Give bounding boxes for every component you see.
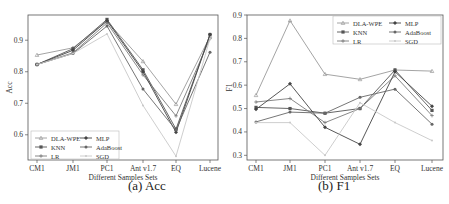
y-tick-label: 0.5	[233, 104, 243, 113]
x-tick-label: JM1	[66, 164, 80, 173]
y-axis-label: Acc	[5, 81, 14, 94]
y-axis-label: F1	[225, 83, 234, 91]
x-tick-label: JM1	[283, 164, 297, 173]
y-tick-label: 0.8	[233, 34, 243, 43]
marker-star	[324, 112, 327, 115]
legend-label: KNN	[353, 29, 367, 36]
legend-label: LR	[51, 153, 60, 160]
marker-dot	[36, 63, 38, 65]
f1-caption: (b) F1	[318, 178, 350, 194]
f1-line-chart: 0.30.40.50.60.70.80.9CM1JM1PC1Ant v1.7EQ…	[225, 0, 449, 204]
acc-chart-panel: 0.60.70.80.9CM1JM1PC1Ant v1.7EQLuceneDif…	[0, 0, 225, 204]
marker-star	[142, 88, 145, 91]
y-tick-label: 0.7	[233, 57, 243, 66]
legend: DLA-WPEKNNLRMLPAdaBoostSGD	[333, 16, 441, 45]
marker-star	[394, 31, 397, 34]
marker-dot	[142, 104, 144, 106]
marker-dot	[431, 140, 433, 142]
y-tick-label: 0.7	[14, 99, 24, 108]
series-mlp	[35, 19, 212, 135]
marker-dot	[255, 122, 257, 124]
marker-star	[209, 51, 212, 54]
marker-dot	[394, 122, 396, 124]
series-knn	[35, 18, 211, 131]
marker-dot	[209, 38, 211, 40]
acc-caption: (a) Acc	[128, 178, 166, 194]
marker-dot	[85, 155, 87, 157]
marker-star	[431, 123, 434, 126]
series-adaboost	[255, 88, 434, 126]
marker-star	[289, 111, 292, 114]
series-sgd	[255, 102, 433, 157]
marker-dot	[359, 102, 361, 104]
legend-label: AdaBoost	[96, 144, 122, 151]
series-line	[256, 70, 432, 113]
marker-diamond	[358, 142, 362, 146]
marker-star	[175, 129, 178, 132]
marker-square	[341, 30, 344, 33]
marker-dot	[394, 40, 396, 42]
marker-dot	[324, 154, 326, 156]
legend-label: LR	[353, 38, 362, 45]
marker-dot	[289, 122, 291, 124]
series-knn	[254, 68, 433, 114]
marker-plus	[254, 100, 258, 104]
series-line	[256, 89, 432, 124]
series-line	[37, 21, 210, 104]
marker-dot	[175, 155, 177, 157]
legend-label: KNN	[51, 144, 65, 151]
x-tick-label: CM1	[29, 164, 45, 173]
y-tick-label: 0.9	[233, 11, 243, 20]
x-tick-label: Lucene	[199, 164, 222, 173]
marker-square	[39, 145, 42, 148]
series-dla-wpe	[35, 20, 212, 106]
series-adaboost	[36, 25, 212, 132]
x-tick-label: EQ	[171, 164, 182, 173]
legend-label: MLP	[405, 20, 419, 27]
legend-label: SGD	[96, 153, 109, 160]
x-tick-label: CM1	[248, 164, 264, 173]
marker-star	[106, 25, 109, 28]
f1-chart-panel: 0.30.40.50.60.70.80.9CM1JM1PC1Ant v1.7EQ…	[225, 0, 449, 204]
x-tick-label: PC1	[101, 164, 114, 173]
legend: DLA-WPEKNNLRMLPAdaBoostSGD	[31, 131, 122, 160]
legend-label: MLP	[96, 135, 110, 142]
x-tick-label: EQ	[390, 164, 401, 173]
x-tick-label: Ant v1.7	[130, 164, 157, 173]
y-tick-label: 0.4	[233, 127, 243, 136]
acc-line-chart: 0.60.70.80.9CM1JM1PC1Ant v1.7EQLuceneDif…	[0, 0, 225, 204]
series-lr	[254, 74, 434, 124]
marker-dot	[106, 33, 108, 35]
marker-dot	[72, 52, 74, 54]
marker-square	[430, 109, 433, 112]
series-line	[37, 23, 210, 116]
y-tick-label: 0.6	[14, 130, 24, 139]
legend-label: AdaBoost	[405, 29, 431, 36]
y-tick-label: 0.6	[233, 81, 243, 90]
series-line	[37, 21, 210, 133]
legend-label: DLA-WPE	[353, 20, 382, 27]
x-tick-label: Ant v1.7	[347, 164, 374, 173]
legend-label: SGD	[405, 38, 418, 45]
y-tick-label: 0.3	[233, 151, 243, 160]
y-tick-label: 0.8	[14, 67, 24, 76]
legend-label: DLA-WPE	[51, 135, 80, 142]
x-tick-label: PC1	[319, 164, 332, 173]
marker-star	[359, 96, 362, 99]
series-line	[37, 26, 210, 130]
marker-star	[85, 146, 88, 149]
y-tick-label: 0.9	[14, 36, 24, 45]
marker-star	[394, 88, 397, 91]
marker-square	[288, 107, 291, 110]
x-tick-label: Lucene	[421, 164, 444, 173]
